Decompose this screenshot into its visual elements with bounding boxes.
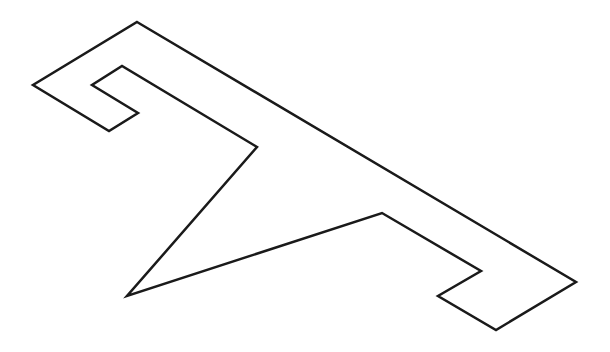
diagram-canvas: [0, 0, 610, 352]
isometric-shape-outline: [33, 22, 576, 330]
shape-drawing: [0, 0, 610, 352]
